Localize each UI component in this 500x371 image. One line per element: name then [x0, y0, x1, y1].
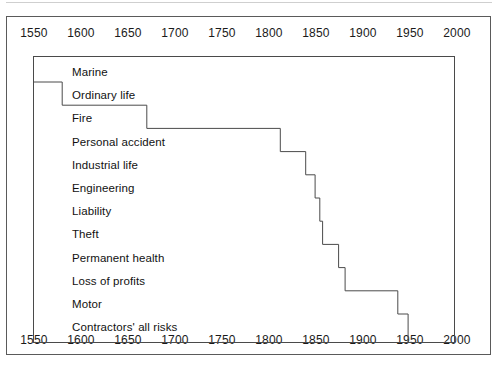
series-label-personal-accident: Personal accident [72, 136, 165, 148]
series-label-industrial-life: Industrial life [72, 159, 138, 171]
axis-tick-label-top-1850: 1850 [302, 26, 330, 40]
axis-tick-label-top-1550: 1550 [20, 26, 48, 40]
series-label-permanent-health: Permanent health [72, 252, 164, 264]
series-label-engineering: Engineering [72, 182, 134, 194]
insurance-timeline-figure: 1550160016501700175018001850190019502000… [0, 0, 500, 371]
scan-artifact-line [6, 2, 492, 3]
series-label-fire: Fire [72, 112, 92, 124]
axis-tick-label-top-1900: 1900 [349, 26, 377, 40]
series-label-motor: Motor [72, 298, 102, 310]
series-label-loss-of-profits: Loss of profits [72, 275, 145, 287]
axis-tick-label-top-1650: 1650 [114, 26, 142, 40]
axis-top: 1550160016501700175018001850190019502000 [0, 26, 500, 42]
axis-tick-label-top-1750: 1750 [208, 26, 236, 40]
axis-tick-label-top-2000: 2000 [443, 26, 471, 40]
axis-tick-label-top-1600: 1600 [67, 26, 95, 40]
axis-tick-label-top-1700: 1700 [161, 26, 189, 40]
axis-tick-label-top-1950: 1950 [396, 26, 424, 40]
series-label-contractors-all-risks: Contractors' all risks [72, 321, 177, 333]
axis-tick-label-top-1800: 1800 [255, 26, 283, 40]
series-label-marine: Marine [72, 66, 108, 78]
series-label-liability: Liability [72, 205, 111, 217]
series-label-ordinary-life: Ordinary life [72, 89, 135, 101]
series-label-theft: Theft [72, 228, 99, 240]
